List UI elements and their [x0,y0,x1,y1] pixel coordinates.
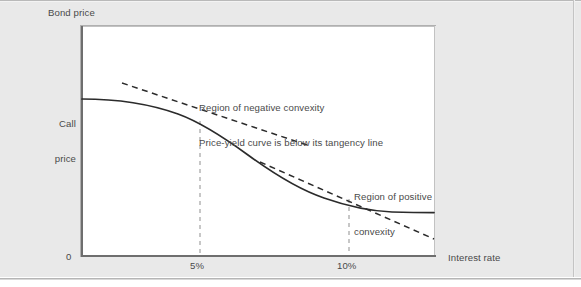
figure-container: Bond price Interest rate Call price 0 5%… [0,0,581,287]
origin-label: 0 [66,251,71,263]
annotation-positive-convexity: Region of positive convexity [354,168,432,261]
call-price-label: Call price [20,95,76,188]
x-tick-label-5pct: 5% [190,260,204,272]
annotation-negative-convexity-line2: Price-yield curve is below its tangency … [199,137,383,149]
call-price-label-line1: Call [20,118,76,130]
y-axis-title: Bond price [48,7,95,19]
x-tick-label-10pct: 10% [337,260,357,272]
y-axis-line [81,26,83,257]
x-axis-title: Interest rate [448,252,501,264]
figure-bottom-margin [0,280,581,287]
call-price-label-line2: price [20,153,76,165]
annotation-negative-convexity-line1: Region of negative convexity [199,102,383,114]
annotation-positive-convexity-line1: Region of positive [354,191,432,203]
plot-panel-edge-right [434,26,435,256]
figure-right-border [573,0,575,280]
annotation-positive-convexity-line2: convexity [354,226,432,238]
figure-top-border [0,0,581,2]
annotation-negative-convexity: Region of negative convexity Price-yield… [199,79,383,172]
plot-panel-edge-top [81,26,435,27]
